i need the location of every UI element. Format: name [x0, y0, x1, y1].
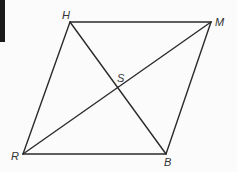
vertex-label-b: B: [164, 156, 171, 168]
side-mb: [166, 22, 211, 154]
vertex-label-m: M: [215, 16, 225, 28]
intersection-label-s: S: [117, 72, 125, 84]
vertex-label-h: H: [62, 9, 70, 21]
diagonal-rm: [23, 22, 211, 154]
parallelogram-diagram: H M B R S: [0, 0, 237, 172]
vertex-label-r: R: [11, 150, 19, 162]
side-rh: [23, 22, 70, 154]
